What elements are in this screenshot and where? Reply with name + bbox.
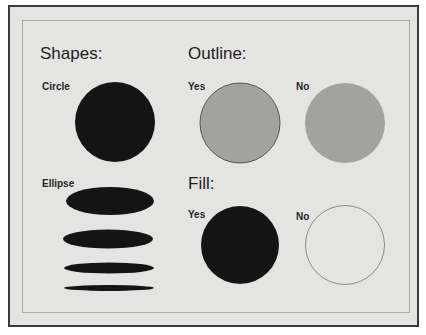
shape-circle <box>75 82 155 162</box>
shapes-canvas <box>0 0 426 335</box>
outline-yes-circle <box>200 83 280 163</box>
fill-no-circle <box>306 206 385 285</box>
ellipse-medium <box>63 230 153 249</box>
ellipse-small <box>64 263 154 274</box>
ellipse-large <box>66 187 154 215</box>
fill-yes-circle <box>201 206 279 284</box>
outline-no-circle <box>305 83 385 163</box>
ellipse-thin <box>64 285 154 291</box>
